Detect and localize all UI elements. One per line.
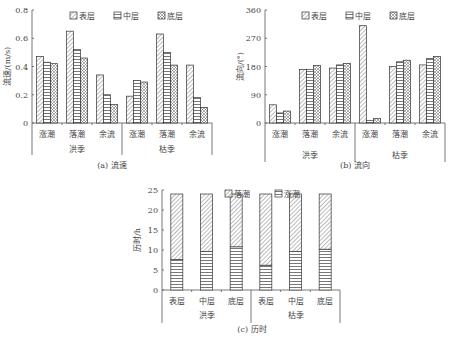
bar [111,105,118,123]
bar [284,111,291,123]
bar [51,64,58,123]
legend-swatch [225,190,232,197]
bar [360,26,367,123]
bar [141,82,148,123]
bar [404,60,411,123]
bar-segment [319,249,331,290]
x-group-label: 枯季 [288,310,304,320]
y-tick-label: 0.2 [15,91,28,100]
bar [344,63,351,123]
bar-segment [230,247,242,290]
legend-label: 中层 [355,11,371,21]
x-category-label: 涨潮 [39,129,55,139]
legend-label: 底层 [399,11,415,21]
y-axis-label: 流向/(°) [235,52,245,81]
x-category-label: 涨潮 [129,129,145,139]
legend-swatch [70,12,77,19]
chart-caption: (c) 历时 [237,324,266,334]
bar [67,31,74,123]
bar [330,68,337,123]
bar [171,65,178,123]
bar [194,98,201,123]
bar [164,52,171,123]
bar-segment [171,260,183,290]
bar [187,65,194,123]
legend-swatch [275,190,282,197]
x-category-label: 中层 [199,296,215,306]
x-category-label: 落潮 [302,129,318,139]
bar [44,62,51,123]
y-tick-label: 180 [246,63,261,72]
x-group-label: 洪季 [302,150,318,160]
x-category-label: 底层 [228,296,244,306]
bar [81,58,88,123]
bar-segment [201,252,213,290]
y-tick-label: 15 [148,226,158,235]
x-category-label: 余流 [422,129,438,139]
x-category-label: 表层 [258,296,274,306]
chart-flow-direction: 090180270360流向/(°)涨潮落潮余流涨潮落潮余流洪季枯季表层中层底层… [235,6,445,170]
bar [374,119,381,123]
y-tick-label: 5 [153,266,158,275]
bar [300,70,307,123]
y-tick-label: 90 [251,91,261,100]
x-category-label: 涨潮 [362,129,378,139]
x-category-label: 落潮 [159,129,175,139]
legend-label: 底层 [167,11,183,21]
x-group-label: 枯季 [392,150,408,160]
legend-label: 中层 [123,11,139,21]
x-category-label: 底层 [317,296,333,306]
bar-segment [201,194,213,252]
bar [37,57,44,123]
legend-swatch [114,12,121,19]
bar [104,95,111,123]
legend-label: 涨潮 [284,189,300,199]
legend-label: 落潮 [234,189,250,199]
y-tick-label: 20 [148,206,158,215]
y-tick-label: 270 [246,34,261,43]
bar-segment [260,194,272,265]
bar [277,113,284,123]
bar [307,70,314,123]
x-group-label: 洪季 [69,144,85,154]
legend-swatch [346,12,353,19]
y-axis-label: 历时/h [132,228,142,252]
chart-duration: 0510152025历时/h表层中层底层表层中层底层洪季枯季落潮涨潮(c) 历时 [132,186,340,334]
x-category-label: 落潮 [69,129,85,139]
bar-segment [260,265,272,290]
y-tick-label: 0.6 [15,34,28,43]
bar [390,67,397,124]
bar [434,56,441,123]
legend-swatch [302,12,309,19]
legend-label: 表层 [79,11,95,21]
x-category-label: 落潮 [392,129,408,139]
legend-swatch [158,12,165,19]
legend-swatch [390,12,397,19]
y-tick-label: 10 [148,246,158,255]
y-tick-label: 0 [23,119,28,128]
chart-flow-velocity: 00.20.40.60.8流速/(m/s)涨潮落潮余流涨潮落潮余流洪季枯季表层中… [2,6,212,170]
bar [157,34,164,123]
bar-segment [290,252,302,290]
y-tick-label: 0 [153,286,158,295]
bar [397,62,404,123]
figure-canvas: 00.20.40.60.8流速/(m/s)涨潮落潮余流涨潮落潮余流洪季枯季表层中… [0,0,449,341]
x-category-label: 余流 [332,129,348,139]
x-category-label: 余流 [189,129,205,139]
bar-segment [171,194,183,260]
x-category-label: 余流 [99,129,115,139]
bar-segment [290,194,302,252]
x-category-label: 中层 [288,296,304,306]
y-tick-label: 360 [246,6,261,15]
bar [97,75,104,123]
y-axis-label: 流速/(m/s) [2,47,12,86]
chart-caption: (a) 流速 [97,160,127,170]
bar-segment [230,194,242,247]
bar [367,120,374,123]
bar [134,81,141,123]
y-tick-label: 0.8 [15,6,28,15]
x-category-label: 涨潮 [272,129,288,139]
bar [270,105,277,123]
x-group-label: 洪季 [199,310,215,320]
bar [201,107,208,123]
